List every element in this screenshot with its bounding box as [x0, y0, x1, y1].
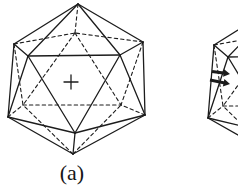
center-plus-marker	[64, 75, 78, 89]
visible-edge	[28, 56, 75, 133]
visible-edge	[78, 4, 143, 42]
visible-edge	[14, 44, 28, 56]
visible-edge	[120, 42, 143, 55]
icosahedron-a	[8, 4, 145, 154]
visible-edge	[143, 42, 145, 115]
visible-edge	[214, 45, 228, 57]
visible-edge	[78, 4, 120, 55]
visible-edge	[8, 117, 75, 133]
visible-edge	[75, 55, 120, 133]
subfigure-label-a: (a)	[36, 160, 108, 186]
hidden-edge	[73, 105, 121, 154]
visible-edge	[75, 115, 145, 133]
visible-edge	[73, 115, 145, 154]
hidden-edge	[75, 4, 78, 33]
icosahedron-figure: (a)	[0, 0, 238, 190]
hidden-edge	[23, 33, 75, 105]
visible-edge	[214, 5, 238, 45]
visible-edge	[228, 57, 238, 134]
visible-edge	[28, 55, 120, 56]
visible-edge	[73, 133, 75, 154]
right-arrow-icon	[212, 69, 230, 77]
hidden-edge	[121, 42, 143, 105]
